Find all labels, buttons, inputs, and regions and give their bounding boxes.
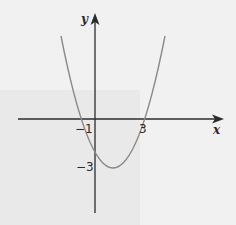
y-tick-neg3: −3 [76,161,94,173]
parabola-curve [61,36,165,168]
x-tick-3: 3 [139,123,147,135]
y-axis-label: y [81,13,88,25]
x-tick-neg1: −1 [75,123,93,135]
graph-svg [0,0,236,225]
x-axis-label: x [213,124,220,136]
graph-canvas: y x −1 3 −3 [0,0,236,225]
